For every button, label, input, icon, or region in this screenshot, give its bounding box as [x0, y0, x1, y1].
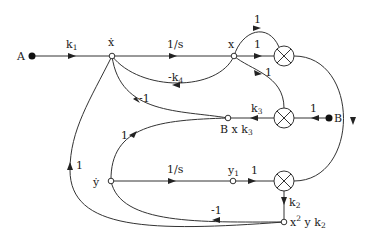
node-bxk3: [225, 115, 231, 121]
edge-a-to-xdot: [32, 53, 112, 59]
label-ydot: ẏ: [92, 176, 100, 189]
node-ydot: [108, 178, 114, 184]
edge-y1-to-bottom-multiplier: [233, 178, 274, 184]
label-b: B: [334, 112, 342, 125]
label-edge-k3: k3: [251, 102, 263, 116]
label-edge-x-topmult: 1: [254, 38, 261, 51]
label-edge-x-topmult-arc: 1: [254, 13, 261, 26]
signal-flow-diagram: A ẋ x B B x k3 ẏ y1 x2 y k2 k1 1/s 1 1 1…: [0, 0, 370, 242]
label-edge-bxk3-ydot: 1: [121, 129, 128, 142]
edge-x-to-middle-multiplier: [234, 56, 284, 108]
label-edge-neg-k4: -k4: [168, 71, 183, 85]
node-a: [29, 53, 36, 60]
edge-b-to-middle-multiplier: [294, 115, 329, 121]
label-edge-k2: k2: [289, 196, 301, 210]
node-y1: [230, 178, 236, 184]
label-x: x: [228, 38, 235, 51]
edge-bottom-multiplier-to-x2yk2: [281, 191, 287, 222]
label-edge-neg1-lower: -1: [211, 204, 222, 217]
edge-middle-multiplier-to-bxk3: [228, 115, 274, 121]
label-edge-k1: k1: [66, 38, 77, 52]
label-edge-x2yk2-xdot: 1: [76, 159, 83, 172]
label-x2yk2: x2 y k2: [290, 214, 326, 230]
label-edge-y1-botmult: 1: [251, 164, 258, 177]
label-edge-x-midmult: 1: [265, 66, 272, 79]
label-xdot: ẋ: [108, 36, 115, 49]
top-multiplier: [274, 46, 294, 66]
label-edge-b-midmult: 1: [310, 102, 317, 115]
label-edge-neg1-upper: -1: [139, 92, 150, 105]
node-xdot: [109, 53, 115, 59]
bottom-multiplier: [274, 171, 294, 191]
node-b: [326, 115, 333, 122]
edge-xdot-to-x: [112, 53, 234, 59]
label-a: A: [16, 50, 26, 63]
label-edge-xdot-x: 1/s: [167, 38, 184, 51]
edge-x-to-top-multiplier: [234, 53, 274, 59]
label-y1: y1: [227, 164, 239, 178]
middle-multiplier: [274, 108, 294, 128]
label-bxk3: B x k3: [220, 123, 253, 137]
label-edge-ydot-y1: 1/s: [167, 163, 184, 176]
node-x2yk2: [281, 219, 287, 225]
edge-bxk3-to-xdot: [112, 56, 228, 118]
edge-x2yk2-to-ydot: [111, 181, 284, 223]
node-x: [231, 53, 237, 59]
edge-ydot-to-y1: [111, 178, 233, 184]
